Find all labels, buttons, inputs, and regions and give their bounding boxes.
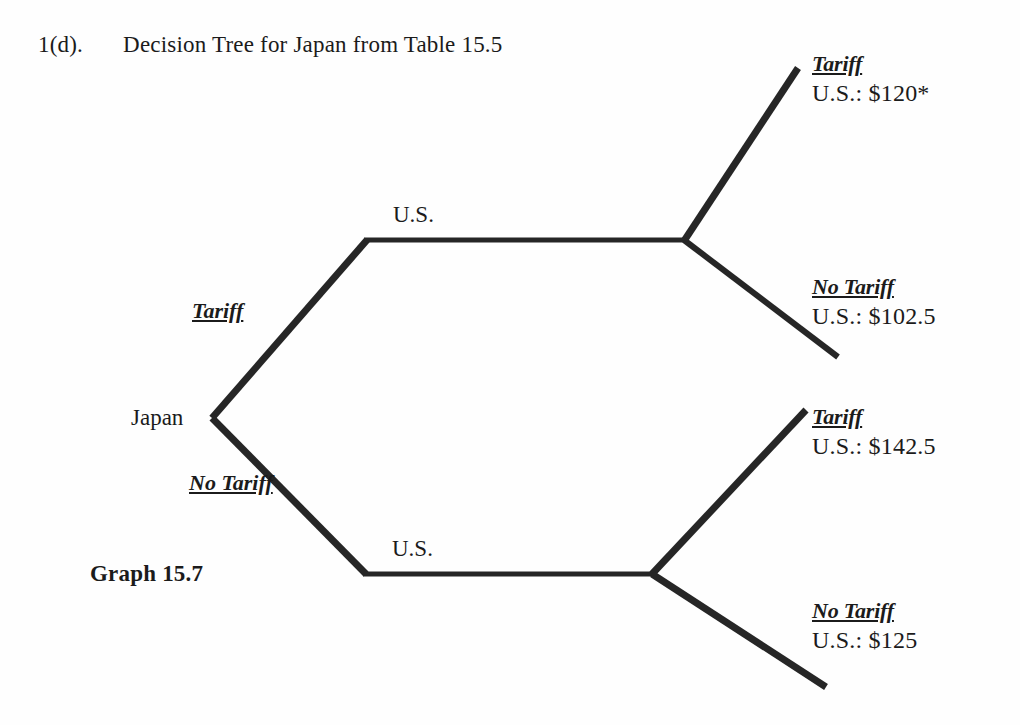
node-label-upper-us: U.S. bbox=[393, 201, 434, 228]
outcome-2-choice: No Tariff bbox=[812, 274, 936, 300]
outcome-4-value: U.S.: $125 bbox=[812, 627, 917, 654]
outcome-2: No Tariff U.S.: $102.5 bbox=[812, 274, 936, 330]
branch-label-no-tariff: No Tariff bbox=[189, 470, 273, 496]
outcome-3-value: U.S.: $142.5 bbox=[812, 433, 936, 460]
outcome-1: Tariff U.S.: $120* bbox=[812, 51, 930, 107]
outcome-1-value: U.S.: $120* bbox=[812, 80, 930, 107]
outcome-2-value: U.S.: $102.5 bbox=[812, 303, 936, 330]
outcome-3: Tariff U.S.: $142.5 bbox=[812, 404, 936, 460]
figure-caption: Graph 15.7 bbox=[90, 561, 203, 587]
node-label-japan: Japan bbox=[131, 404, 183, 431]
edge-upper-tariff bbox=[684, 68, 798, 241]
edge-lower-no-tariff bbox=[652, 574, 826, 687]
outcome-4: No Tariff U.S.: $125 bbox=[812, 598, 917, 654]
node-label-lower-us: U.S. bbox=[392, 535, 433, 562]
branch-label-tariff: Tariff bbox=[192, 298, 243, 324]
document-page: 1(d). Decision Tree for Japan from Table… bbox=[0, 0, 1020, 725]
outcome-1-choice: Tariff bbox=[812, 51, 930, 77]
outcome-3-choice: Tariff bbox=[812, 404, 936, 430]
edge-root-to-lower-us bbox=[212, 418, 366, 574]
outcome-4-choice: No Tariff bbox=[812, 598, 917, 624]
edge-root-to-upper-us bbox=[212, 240, 367, 418]
edge-lower-tariff bbox=[652, 410, 806, 574]
